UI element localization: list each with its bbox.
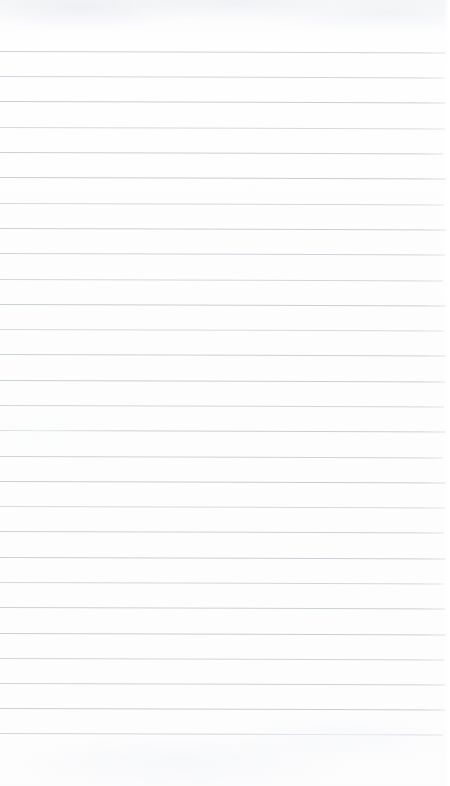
rule-line	[0, 733, 443, 735]
rule-line	[0, 354, 446, 356]
rule-line	[0, 708, 445, 710]
ruled-paper-page	[0, 0, 450, 786]
rule-line	[0, 582, 443, 584]
rule-line	[0, 253, 445, 255]
rule-line	[0, 607, 445, 609]
rule-line	[0, 531, 444, 533]
rule-line	[0, 481, 446, 483]
rule-line	[0, 177, 446, 179]
rule-line	[0, 405, 444, 407]
rule-line	[0, 380, 445, 382]
rule-line	[0, 279, 443, 281]
rule-line	[0, 683, 446, 685]
rule-line	[0, 329, 444, 331]
rule-line	[0, 430, 446, 432]
rule-lines-layer	[0, 0, 450, 786]
rule-line	[0, 152, 443, 154]
rule-line	[0, 127, 445, 129]
rule-line	[0, 304, 446, 306]
rule-line	[0, 506, 445, 508]
rule-line	[0, 228, 446, 230]
rule-line	[0, 203, 444, 205]
rule-line	[0, 633, 446, 635]
rule-line	[0, 456, 443, 458]
rule-line	[0, 658, 444, 660]
rule-line	[0, 101, 446, 103]
rule-line	[0, 557, 446, 559]
rule-line	[0, 51, 446, 53]
rule-line	[0, 76, 444, 78]
